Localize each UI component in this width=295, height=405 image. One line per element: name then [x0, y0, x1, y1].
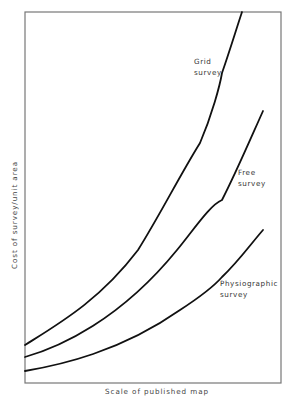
grid-survey-label-line1: Grid — [194, 57, 211, 66]
free-survey-label-line2: survey — [238, 179, 266, 188]
free-survey-curve — [25, 111, 263, 357]
free-survey-label-line1: Free — [238, 168, 256, 177]
physiographic-survey-label-line2: survey — [220, 290, 248, 299]
physiographic-survey-curve — [25, 230, 263, 371]
cost-vs-scale-chart: Grid survey Free survey Physiographic su… — [0, 0, 295, 405]
grid-survey-label-line2: survey — [194, 68, 222, 77]
x-axis-label: Scale of published map — [105, 387, 209, 396]
physiographic-survey-label-line1: Physiographic — [220, 279, 278, 288]
y-axis-label: Cost of survey/unit area — [10, 161, 19, 269]
